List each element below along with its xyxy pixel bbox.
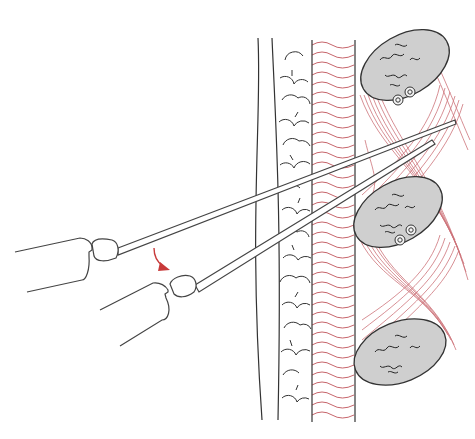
anatomy-diagram [0,0,475,439]
layer-boundaries [256,38,355,422]
syringe-upper-hub [92,239,118,261]
bone-upper [348,15,461,115]
skin-inner-line [272,38,279,420]
fascia-layer [312,42,354,418]
illustration-canvas [0,0,475,439]
syringe-lower-barrel [100,283,169,346]
syringe-lower-hub [170,275,196,296]
rotation-arrow [154,248,170,271]
syringe-upper-barrel [15,238,92,292]
skin-outer-line [256,38,262,420]
